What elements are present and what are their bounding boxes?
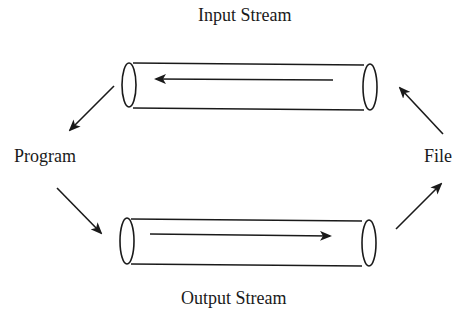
arrow-file-to-input-icon — [400, 88, 443, 134]
pipe-bottom-edge — [133, 108, 364, 110]
stream-diagram: Input Stream Output Stream Program File — [0, 0, 465, 320]
arrow-output-to-file-icon — [396, 184, 441, 229]
input-stream-pipe — [122, 63, 377, 110]
pipe-bottom-edge — [131, 264, 362, 266]
pipe-left-opening — [120, 218, 134, 264]
pipe-top-edge — [131, 219, 362, 221]
pipe-right-opening — [363, 64, 377, 110]
arrow-input-to-program-icon — [70, 86, 114, 130]
file-node-label: File — [424, 147, 452, 165]
flow-arrow-left-icon — [156, 79, 333, 80]
arrow-program-to-output-icon — [57, 188, 101, 233]
output-stream-label: Output Stream — [181, 289, 287, 307]
pipe-top-edge — [133, 63, 364, 65]
flow-arrow-right-icon — [150, 234, 330, 236]
program-node-label: Program — [14, 147, 76, 165]
input-stream-label: Input Stream — [198, 6, 291, 24]
pipe-right-opening — [362, 220, 376, 266]
pipe-left-opening — [122, 63, 136, 107]
output-stream-pipe — [120, 218, 376, 266]
